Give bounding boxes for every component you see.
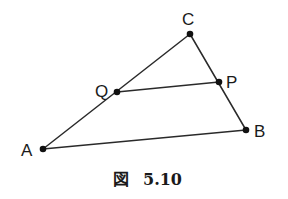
- point-A-label: A: [21, 141, 33, 160]
- figure-caption-number: 5.10: [143, 170, 182, 189]
- point-C-label: C: [182, 10, 194, 29]
- figure-caption-prefix: 図: [113, 170, 129, 189]
- figure-5-10: C Q P A B 図 5.10: [0, 0, 288, 199]
- point-Q-dot: [114, 89, 121, 96]
- point-C-dot: [187, 31, 194, 38]
- segment-QP: [117, 82, 219, 92]
- point-Q-label: Q: [95, 82, 108, 101]
- point-B-dot: [243, 127, 250, 134]
- point-P-dot: [216, 79, 223, 86]
- point-A-dot: [40, 146, 47, 153]
- point-P-label: P: [226, 73, 237, 92]
- point-B-label: B: [254, 122, 265, 141]
- triangle-diagram: C Q P A B 図 5.10: [0, 0, 288, 199]
- segment-AB: [43, 130, 246, 149]
